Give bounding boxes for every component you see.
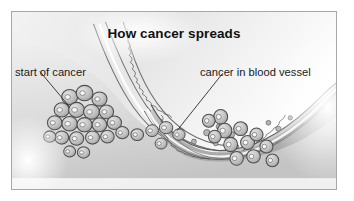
figure-title: How cancer spreads [12,26,336,41]
label-cancer-in-blood-vessel: cancer in blood vessel [200,66,311,78]
figure-frame: How cancer spreads start of cancer cance… [11,11,337,190]
label-start-of-cancer: start of cancer [15,66,86,78]
figure-page: How cancer spreads start of cancer cance… [0,0,354,201]
bottom-fade [12,178,336,189]
